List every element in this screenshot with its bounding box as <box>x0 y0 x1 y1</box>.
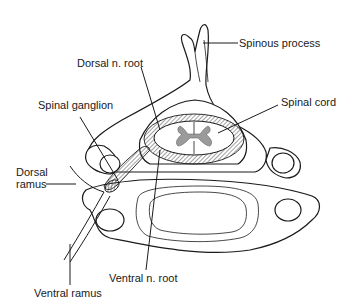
label-spinous-process: Spinous process <box>239 37 320 49</box>
label-dorsal-n-root: Dorsal n. root <box>77 57 143 69</box>
right-transverse-foramen <box>272 153 294 173</box>
label-ventral-ramus: Ventral ramus <box>34 287 102 299</box>
label-ventral-n-root: Ventral n. root <box>109 272 178 284</box>
label-spinal-ganglion: Spinal ganglion <box>38 99 113 111</box>
label-dorsal-ramus-line1: Dorsal <box>16 166 48 178</box>
label-spinal-cord: Spinal cord <box>281 96 336 108</box>
label-dorsal-ramus-line2: ramus <box>16 178 47 190</box>
lower-right-foramen <box>275 199 301 221</box>
